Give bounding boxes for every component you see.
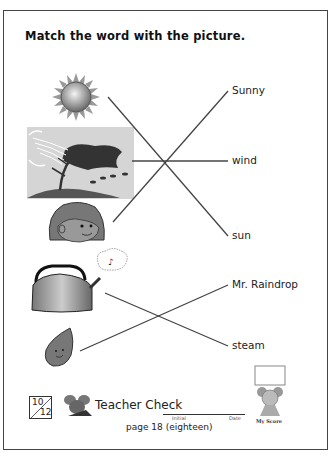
svg-text:♪: ♪ <box>108 257 114 267</box>
score-denominator: 12 <box>40 407 51 417</box>
word-steam: steam <box>232 339 265 351</box>
score-box: 10 12 <box>29 396 52 419</box>
mouse-icon <box>64 395 92 416</box>
girl-face-icon <box>49 202 104 242</box>
illustrations: ♪ <box>0 0 335 459</box>
word-mr-raindrop: Mr. Raindrop <box>232 278 298 290</box>
wind-tree-icon <box>27 127 134 199</box>
word-wind: wind <box>232 154 257 166</box>
score-numerator: 10 <box>32 397 43 407</box>
teacher-check-label: Teacher Check <box>95 398 182 412</box>
page-number: page 18 (eighteen) <box>126 422 212 432</box>
my-score-mouse-icon <box>255 366 285 416</box>
line-raindrop <box>80 285 228 351</box>
raindrop-icon <box>45 328 72 366</box>
word-sun: sun <box>232 229 251 241</box>
sun-icon <box>52 73 100 121</box>
my-score-label: My Score <box>256 418 282 424</box>
word-sunny: Sunny <box>232 84 265 96</box>
kettle-icon: ♪ <box>32 249 127 313</box>
line-kettle-steam <box>105 293 228 346</box>
initial-label: Initial <box>172 415 186 421</box>
date-label: Date <box>229 415 241 421</box>
